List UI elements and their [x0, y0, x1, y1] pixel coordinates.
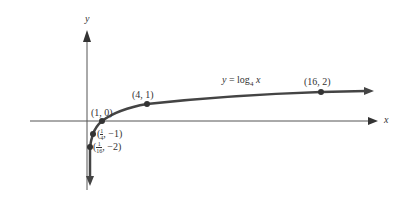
point-label-1-0: (1, 0)	[91, 107, 113, 118]
point-label-4-1: (4, 1)	[132, 89, 154, 100]
log-graph	[0, 0, 406, 198]
point-label-16-2: (16, 2)	[304, 76, 331, 87]
point-label-quarter-neg1: (14, −1)	[97, 128, 122, 141]
point-1-0	[99, 118, 105, 124]
y-axis-arrow-icon	[83, 30, 91, 42]
point-4-1	[144, 101, 150, 107]
rest: , −2)	[102, 141, 121, 152]
function-x: x	[253, 74, 260, 85]
function-label: y = log4 x	[222, 74, 260, 88]
point-label-sixteenth-neg2: (116, −2)	[93, 141, 121, 154]
point-quarter-neg1	[90, 131, 96, 137]
point-16-2	[318, 89, 324, 95]
curve-arrow-right-icon	[364, 87, 374, 95]
x-axis-label: x	[384, 114, 388, 125]
log-curve	[90, 91, 366, 178]
y-axis-label: y	[85, 13, 89, 24]
rest: , −1)	[103, 128, 122, 139]
x-axis-arrow-icon	[368, 117, 378, 125]
function-eq: = log	[226, 74, 249, 85]
